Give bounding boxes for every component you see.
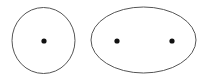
- circle-ellipse-diagram: [0, 0, 205, 80]
- ellipse-group: [91, 7, 196, 73]
- circle-group: [12, 8, 75, 74]
- ellipse-focus-point-1: [114, 38, 119, 43]
- circle-center-point: [41, 38, 46, 43]
- ellipse-focus-point-2: [169, 38, 174, 43]
- ellipse-outline: [91, 7, 196, 73]
